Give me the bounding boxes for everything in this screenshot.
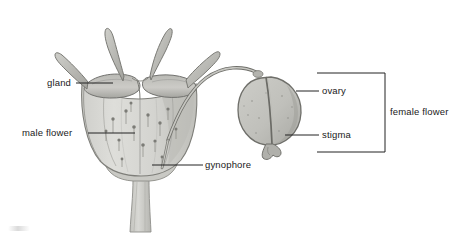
pedicel-stem: [130, 178, 151, 232]
male-flower-cup: [82, 84, 197, 176]
botanical-illustration: [0, 0, 458, 239]
label-female-flower: female flower: [390, 107, 448, 117]
horn-inner-left: [105, 28, 124, 81]
label-ovary: ovary: [322, 86, 346, 96]
scan-artifact: [8, 226, 30, 231]
label-male-flower: male flower: [22, 128, 72, 138]
label-gynophore: gynophore: [205, 160, 251, 170]
label-stigma: stigma: [322, 130, 351, 140]
horn-inner-right: [150, 29, 172, 80]
gland-left: [84, 74, 140, 98]
figure-canvas: gland male flower gynophore ovary stigma…: [0, 0, 458, 239]
label-gland: gland: [47, 78, 71, 88]
stigma: [262, 144, 281, 159]
